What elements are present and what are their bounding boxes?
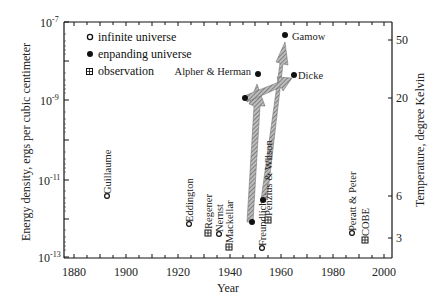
y-tick-1e-7: 10-7 — [40, 15, 59, 30]
x-tick-1960: 1960 — [269, 265, 293, 279]
label-regener: Regener — [203, 194, 214, 229]
legend-expanding-universe: enpanding universe — [98, 47, 192, 61]
y-axis-left-ticks — [64, 22, 69, 257]
y-axis-left-labels: 10-7 10-9 10-11 10-13 — [38, 15, 61, 265]
x-tick-1880: 1880 — [62, 265, 86, 279]
y-right-tick-50: 50 — [396, 33, 408, 47]
x-axis-labels: 1880 1900 1920 1940 1960 1980 2000 — [62, 265, 396, 279]
point-penzias-wilson[interactable] — [265, 217, 271, 223]
label-penzias-wilson: Penzius & Wilson — [263, 139, 274, 216]
open-circle-marker-icon — [87, 34, 92, 39]
point-expanding-1946[interactable] — [242, 95, 248, 101]
filled-circle-marker-icon — [87, 51, 93, 57]
point-regener[interactable] — [205, 230, 211, 236]
x-tick-1900: 1900 — [114, 265, 138, 279]
x-axis-title: Year — [217, 281, 239, 295]
boxed-cross-marker-icon — [87, 69, 93, 75]
series-observation: Regener Mackellar Penzius & Wilson COBE — [203, 139, 371, 250]
point-mackellar[interactable] — [226, 244, 232, 250]
y-tick-1e-13: 10-13 — [38, 250, 61, 265]
label-guillaume: Guillaume — [102, 149, 113, 194]
arrow-shaft-3 — [244, 77, 292, 102]
point-dicke[interactable] — [291, 72, 297, 78]
point-cobe[interactable] — [362, 237, 368, 243]
x-tick-1920: 1920 — [166, 265, 190, 279]
legend-observation: observation — [98, 64, 154, 78]
y-right-tick-20: 20 — [396, 91, 408, 105]
label-dicke: Dicke — [298, 70, 323, 81]
x-tick-1980: 1980 — [321, 265, 345, 279]
point-expanding-1950[interactable] — [249, 219, 255, 225]
x-tick-2000: 2000 — [372, 265, 396, 279]
label-mackellar: Mackellar — [224, 200, 235, 243]
legend-infinite-universe: infinite universe — [98, 30, 176, 44]
y-axis-right-title: Temperature, degree Kelvin — [413, 73, 427, 207]
label-alpher-herman: Alpher & Herman — [175, 66, 252, 77]
label-gamow: Gamow — [292, 31, 326, 42]
y-tick-1e-9: 10-9 — [40, 93, 59, 108]
y-axis-left-title: Energy density, ergs per cubic centimete… — [19, 43, 33, 241]
y-right-tick-3: 3 — [396, 231, 402, 245]
label-cobe: COBE — [360, 208, 371, 236]
chart-canvas: 1880 1900 1920 1940 1960 1980 2000 Year … — [0, 0, 447, 308]
point-alpher-herman[interactable] — [255, 71, 261, 77]
y-right-tick-6: 6 — [396, 189, 402, 203]
y-tick-1e-11: 10-11 — [38, 173, 60, 188]
label-peratt-peter: Peratt & Peter — [347, 171, 358, 231]
y-axis-right-labels: 50 20 6 3 — [396, 33, 408, 245]
point-gamow[interactable] — [282, 32, 288, 38]
label-eddington: Eddington — [184, 178, 195, 222]
x-tick-1940: 1940 — [218, 265, 242, 279]
